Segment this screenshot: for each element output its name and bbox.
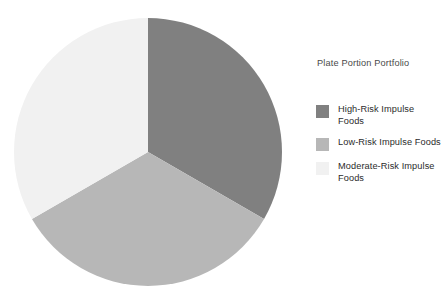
legend-color-swatch (316, 138, 329, 151)
pie-plot-area (0, 0, 300, 301)
legend: Plate Portion Portfolio High-Risk Impuls… (316, 0, 446, 301)
legend-item-list: High-Risk Impulse FoodsLow-Risk Impulse … (316, 104, 446, 194)
legend-title: Plate Portion Portfolio (317, 58, 409, 68)
pie-chart-figure: Plate Portion Portfolio High-Risk Impuls… (0, 0, 446, 301)
legend-item[interactable]: High-Risk Impulse Foods (316, 104, 446, 127)
legend-color-swatch (316, 162, 329, 175)
legend-item[interactable]: Moderate-Risk Impulse Foods (316, 161, 446, 184)
legend-item-label: Moderate-Risk Impulse Foods (338, 161, 442, 184)
legend-item-label: Low-Risk Impulse Foods (338, 137, 441, 149)
pie-svg (0, 0, 300, 301)
legend-item[interactable]: Low-Risk Impulse Foods (316, 137, 446, 151)
legend-item-label: High-Risk Impulse Foods (338, 104, 442, 127)
pie-slice-group (14, 18, 282, 286)
legend-color-swatch (316, 105, 329, 118)
